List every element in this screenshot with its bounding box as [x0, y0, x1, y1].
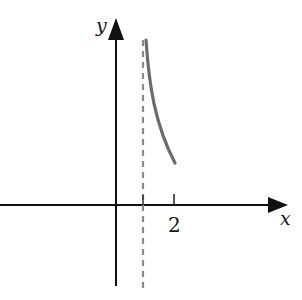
x-axis-label: x [280, 207, 291, 229]
y-axis-label: y [95, 14, 107, 36]
graph: 2 x y [0, 0, 302, 300]
function-curve [146, 40, 175, 163]
y-axis-arrow-icon [108, 18, 124, 40]
x-tick-label-2: 2 [168, 213, 181, 237]
